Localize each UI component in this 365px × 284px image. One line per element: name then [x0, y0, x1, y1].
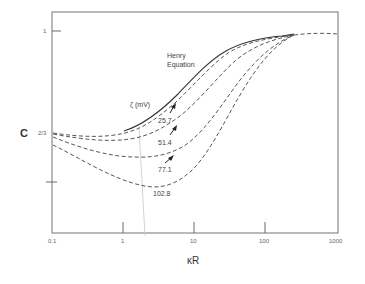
y-tick-label-2-3: 2/3 [38, 130, 47, 136]
chart-canvas: 1 2/3 0.1 1 10 100 1000 C κR Henry Equat… [0, 0, 365, 284]
y-tick-label-1: 1 [43, 28, 47, 34]
henry-label-line2: Equation [167, 61, 195, 69]
zeta-label-25-7: 25.7 [158, 117, 172, 124]
curve-zeta-25-7 [53, 33, 338, 136]
x-axis-label: κR [187, 255, 199, 266]
guide-line [139, 128, 145, 236]
zeta-label-51-4: 51.4 [158, 139, 172, 146]
arrow-icon-51-4 [170, 125, 177, 135]
curve-zeta-51-4 [53, 35, 294, 140]
x-tick-label-1: 1 [121, 238, 125, 244]
plot-frame [52, 12, 338, 233]
y-axis-label: C [20, 127, 28, 139]
arrow-icon-77-1 [165, 155, 174, 163]
henry-label-line1: Henry [167, 52, 186, 60]
arrow-icon-25-7 [170, 103, 176, 113]
x-tick-label-0-1: 0.1 [48, 238, 57, 244]
zeta-label-77-1: 77.1 [158, 166, 172, 173]
henry-equation-curve [124, 34, 294, 131]
zeta-header-label: ζ (mV) [130, 101, 150, 109]
zeta-label-102-8: 102.8 [153, 190, 171, 197]
x-tick-label-10: 10 [190, 238, 197, 244]
x-tick-label-1000: 1000 [329, 238, 343, 244]
x-tick-label-100: 100 [259, 238, 270, 244]
